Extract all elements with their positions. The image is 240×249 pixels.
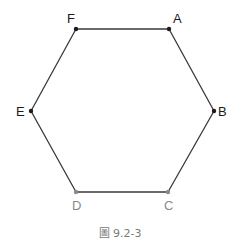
vertex-points xyxy=(29,27,216,194)
vertex-point-a xyxy=(167,27,171,31)
vertex-label-c: C xyxy=(164,198,173,213)
vertex-label-f: F xyxy=(67,11,75,26)
vertex-point-c xyxy=(166,190,170,194)
vertex-label-b: B xyxy=(218,104,227,119)
vertex-point-b xyxy=(212,109,216,113)
hexagon-figure: A B C D E F xyxy=(0,0,240,249)
hexagon-outline xyxy=(31,29,214,192)
vertex-point-d xyxy=(74,190,78,194)
vertex-label-a: A xyxy=(173,11,182,26)
vertex-label-e: E xyxy=(16,104,25,119)
vertex-label-d: D xyxy=(72,198,81,213)
vertex-labels: A B C D E F xyxy=(16,11,227,213)
figure-caption: 圖 9.2-3 xyxy=(0,224,240,240)
vertex-point-f xyxy=(74,27,78,31)
vertex-point-e xyxy=(29,109,33,113)
